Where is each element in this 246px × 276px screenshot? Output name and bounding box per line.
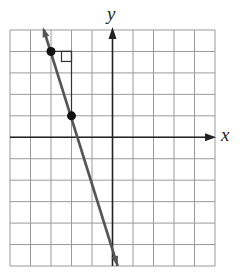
- data-point: [67, 111, 76, 120]
- y-axis-label: y: [107, 4, 115, 23]
- plotted-line: [44, 30, 118, 266]
- y-axis-arrow-icon: [109, 27, 117, 39]
- line-arrow-icon: [43, 27, 50, 38]
- x-axis-arrow-icon: [205, 133, 216, 141]
- x-axis-label: x: [221, 125, 229, 144]
- right-angle-marker-icon: [62, 51, 72, 61]
- coordinate-plane: [0, 0, 246, 276]
- data-point: [47, 47, 56, 56]
